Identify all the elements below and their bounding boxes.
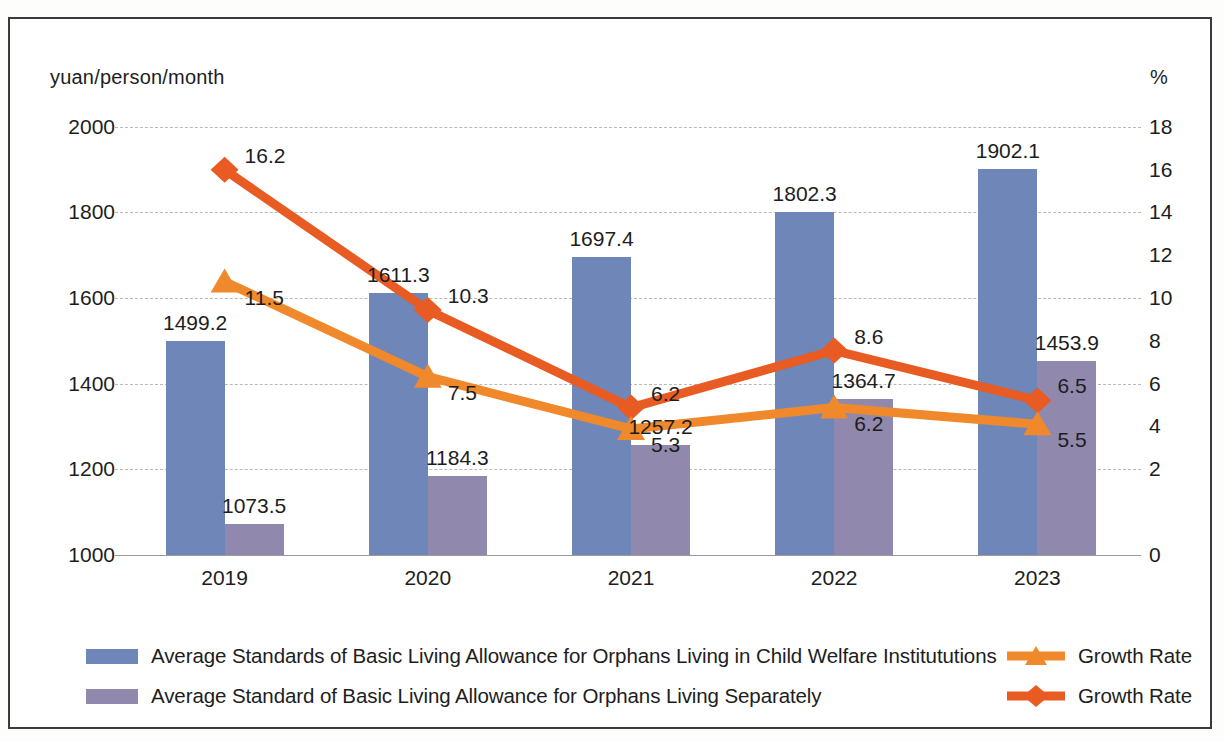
legend-label-blue: Average Standards of Basic Living Allowa…: [151, 644, 997, 668]
legend-item-blue-bars[interactable]: Average Standards of Basic Living Allowa…: [86, 639, 997, 673]
marker-triangle-2019: [211, 269, 239, 293]
legend-swatch-icon-purple: [86, 689, 138, 704]
point-value-label: 6.5: [1057, 374, 1086, 398]
category-label-2019: 2019: [145, 566, 305, 590]
point-value-label: 16.2: [245, 144, 286, 168]
right-tick-4: 4: [1149, 414, 1161, 438]
bar-value-label: 1697.4: [542, 227, 662, 251]
right-tick-16: 16: [1149, 158, 1172, 182]
bar-value-label: 1611.3: [338, 263, 458, 287]
left-axis-unit-label: yuan/person/month: [50, 66, 225, 89]
left-tick-1200: 1200: [68, 457, 115, 481]
left-tick-1600: 1600: [68, 286, 115, 310]
point-value-label: 10.3: [448, 284, 489, 308]
left-tick-1400: 1400: [68, 372, 115, 396]
point-value-label: 5.3: [651, 433, 680, 457]
left-tick-1800: 1800: [68, 200, 115, 224]
right-axis-unit-label: %: [1150, 66, 1168, 89]
point-value-label: 11.5: [245, 286, 284, 310]
bar-2021-institutions: [572, 257, 631, 555]
legend-label-purple: Average Standard of Basic Living Allowan…: [151, 684, 821, 708]
right-tick-12: 12: [1149, 243, 1172, 267]
point-value-label: 6.2: [651, 382, 680, 406]
left-tick-2000: 2000: [68, 115, 115, 139]
category-label-2023: 2023: [957, 566, 1117, 590]
bar-2020-institutions: [369, 293, 428, 555]
legend-swatch-icon-blue: [86, 649, 138, 664]
x-axis-line: [115, 555, 1141, 556]
category-label-2021: 2021: [551, 566, 711, 590]
screenshot-page: yuan/person/month % 2000 1800 1600 1400 …: [0, 0, 1224, 742]
bar-2023-institutions: [978, 169, 1037, 555]
bar-value-label: 1364.7: [804, 369, 924, 393]
right-tick-14: 14: [1149, 200, 1172, 224]
point-value-label: 6.2: [854, 412, 883, 436]
gridline-2000: [115, 127, 1141, 128]
left-tick-1000: 1000: [68, 543, 115, 567]
legend-label-growth-rate-triangle: Growth Rate: [1078, 644, 1192, 668]
bar-value-label: 1184.3: [397, 446, 517, 470]
category-label-2020: 2020: [348, 566, 508, 590]
right-tick-8: 8: [1149, 329, 1161, 353]
point-value-label: 7.5: [448, 381, 477, 405]
bar-2021-separately: [631, 445, 690, 555]
line-triangle: [225, 282, 1038, 429]
legend-item-growth-rate-triangle[interactable]: Growth Rate: [1007, 639, 1192, 673]
legend-item-purple-bars[interactable]: Average Standard of Basic Living Allowan…: [86, 679, 821, 713]
legend-line-triangle-icon: [1007, 643, 1065, 669]
bar-2019-separately: [225, 524, 284, 555]
bar-value-label: 1802.3: [745, 182, 865, 206]
legend-label-growth-rate-diamond: Growth Rate: [1078, 684, 1192, 708]
bar-2019-institutions: [166, 341, 225, 555]
right-tick-0: 0: [1149, 543, 1161, 567]
chart-legend: Average Standards of Basic Living Allowa…: [10, 631, 1214, 717]
bar-value-label: 1499.2: [135, 311, 255, 335]
right-tick-10: 10: [1149, 286, 1172, 310]
point-value-label: 5.5: [1057, 428, 1086, 452]
marker-diamond-2019: [211, 157, 239, 183]
right-tick-18: 18: [1149, 115, 1172, 139]
bar-value-label: 1902.1: [948, 139, 1068, 163]
bar-2020-separately: [428, 476, 487, 555]
bar-value-label: 1453.9: [1007, 331, 1127, 355]
right-tick-6: 6: [1149, 372, 1161, 396]
right-tick-2: 2: [1149, 457, 1161, 481]
legend-item-growth-rate-diamond[interactable]: Growth Rate: [1007, 679, 1192, 713]
chart-frame: yuan/person/month % 2000 1800 1600 1400 …: [8, 17, 1212, 729]
legend-line-diamond-icon: [1007, 683, 1065, 709]
chart-canvas: yuan/person/month % 2000 1800 1600 1400 …: [10, 19, 1214, 731]
point-value-label: 8.6: [854, 325, 883, 349]
bar-value-label: 1073.5: [194, 494, 314, 518]
category-label-2022: 2022: [754, 566, 914, 590]
